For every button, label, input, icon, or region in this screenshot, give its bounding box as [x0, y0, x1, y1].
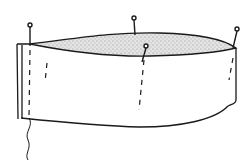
- pin-icon: [28, 23, 32, 44]
- sewing-diagram: [0, 0, 251, 167]
- seam-lines: [29, 50, 233, 117]
- thread-tail: [27, 118, 31, 160]
- pin-icon: [233, 27, 239, 48]
- pin-icon: [132, 16, 136, 35]
- stuffed-top: [30, 33, 236, 56]
